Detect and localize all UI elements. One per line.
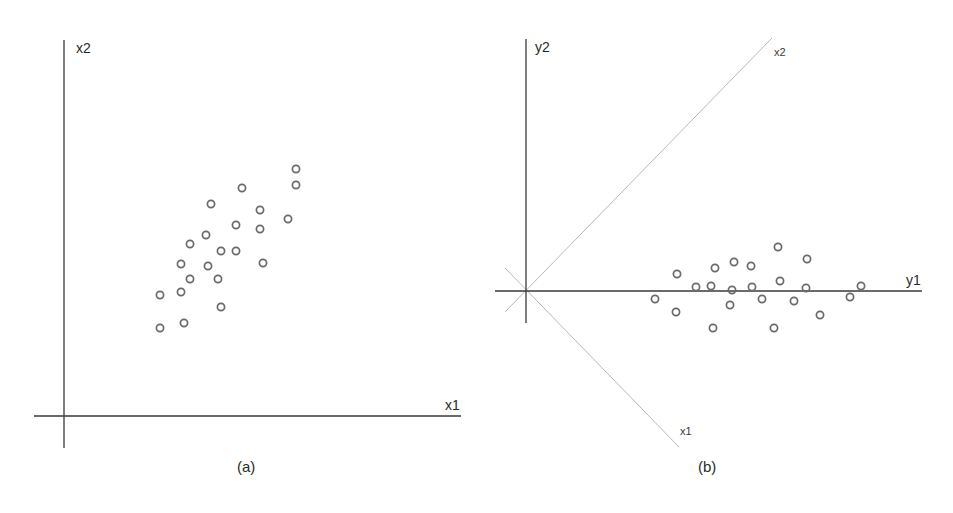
data-point xyxy=(776,277,783,284)
panel-a-x2-label: x2 xyxy=(76,41,91,55)
data-point xyxy=(232,247,239,254)
panel-b-rotated-x1-label: x1 xyxy=(680,426,692,437)
data-point xyxy=(748,283,755,290)
data-point xyxy=(204,262,211,269)
data-point xyxy=(846,293,853,300)
data-point xyxy=(711,264,718,271)
panel-b-rotated-x1-axis xyxy=(505,268,679,447)
data-point xyxy=(214,275,221,282)
data-point xyxy=(202,231,209,238)
data-point xyxy=(232,221,239,228)
data-point xyxy=(758,295,765,302)
data-point xyxy=(259,259,266,266)
data-point xyxy=(180,319,187,326)
data-point xyxy=(673,270,680,277)
data-point xyxy=(238,184,245,191)
data-point xyxy=(256,225,263,232)
panel-a-axes xyxy=(34,40,461,448)
data-point xyxy=(774,243,781,250)
data-point xyxy=(207,200,214,207)
data-point xyxy=(217,303,224,310)
data-point xyxy=(651,295,658,302)
data-point xyxy=(156,324,163,331)
data-point xyxy=(177,288,184,295)
panel-b-rotated-x2-label: x2 xyxy=(774,47,786,58)
figure-canvas xyxy=(0,0,953,513)
data-point xyxy=(816,311,823,318)
data-point xyxy=(803,255,810,262)
data-point xyxy=(857,282,864,289)
data-point xyxy=(709,324,716,331)
data-point xyxy=(284,215,291,222)
data-point xyxy=(790,297,797,304)
panel-a-points xyxy=(156,165,299,331)
panel-b-y2-label: y2 xyxy=(535,40,550,54)
data-point xyxy=(770,324,777,331)
data-point xyxy=(707,282,714,289)
data-point xyxy=(726,301,733,308)
panel-b-axes xyxy=(495,38,922,447)
data-point xyxy=(186,275,193,282)
data-point xyxy=(747,262,754,269)
panel-b-caption: (b) xyxy=(698,459,716,474)
data-point xyxy=(256,206,263,213)
data-point xyxy=(728,286,735,293)
panel-a-caption: (a) xyxy=(237,459,255,474)
panel-b-y1-label: y1 xyxy=(906,273,921,287)
data-point xyxy=(156,291,163,298)
data-point xyxy=(292,181,299,188)
data-point xyxy=(292,165,299,172)
data-point xyxy=(672,308,679,315)
panel-b-rotated-x2-axis xyxy=(505,38,772,312)
data-point xyxy=(692,283,699,290)
data-point xyxy=(186,240,193,247)
panel-a-x1-label: x1 xyxy=(445,398,460,412)
data-point xyxy=(730,258,737,265)
panel-b-points xyxy=(651,243,864,331)
data-point xyxy=(217,247,224,254)
data-point xyxy=(177,260,184,267)
